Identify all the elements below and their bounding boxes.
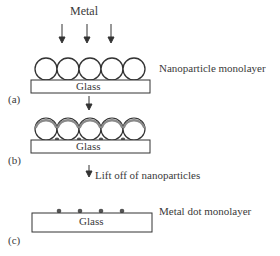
metal-label: Metal	[70, 4, 98, 19]
nanoparticle-monolayer-label: Nanoparticle monolayer	[159, 62, 266, 74]
nanoparticles-b	[35, 118, 145, 141]
arrow-b-to-c	[86, 165, 92, 177]
panel-label-c: (c)	[8, 234, 20, 246]
glass-label-a: Glass	[76, 80, 100, 92]
panel-label-a: (a)	[8, 93, 20, 105]
nanoparticles-a	[35, 58, 145, 80]
arrow-a-to-b	[86, 96, 92, 110]
metal-arrows	[59, 24, 114, 43]
panel-label-b: (b)	[8, 154, 21, 166]
glass-label-c: Glass	[79, 215, 103, 227]
diagram-canvas	[0, 0, 280, 256]
metal-dot-monolayer-label: Metal dot monolayer	[159, 205, 251, 217]
lift-off-label: Lift off of nanoparticles	[95, 169, 200, 181]
glass-label-b: Glass	[76, 140, 100, 152]
